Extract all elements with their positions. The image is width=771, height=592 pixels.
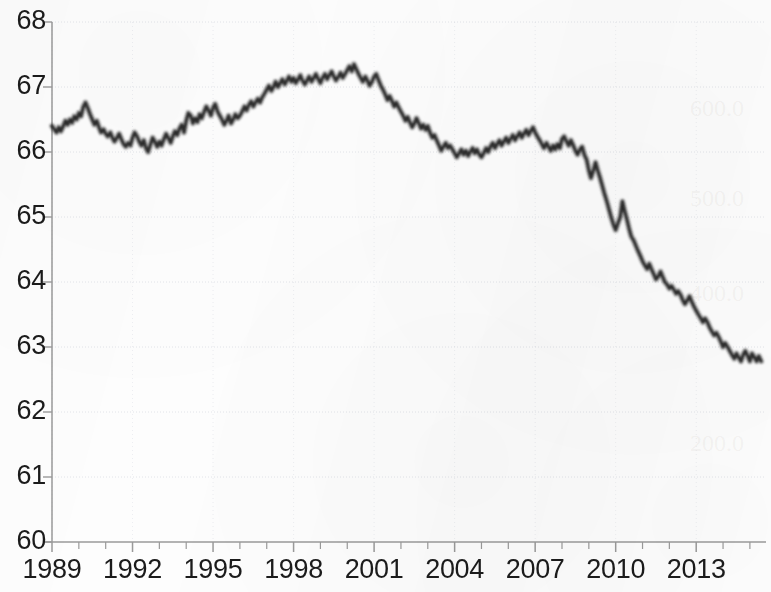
y-axis-tick-label: 63 (0, 330, 46, 361)
chart-line-halo (52, 64, 761, 361)
chart-data-line (52, 64, 761, 361)
x-axis-tick-label: 1989 (12, 554, 92, 585)
chart-container: 600.0 500.0 400.0 200.0 6867666564636261… (0, 0, 771, 592)
y-axis-tick-label: 60 (0, 525, 46, 556)
chart-plot-area (0, 0, 771, 592)
y-axis-tick-label: 68 (0, 5, 46, 36)
y-axis-tick-label: 64 (0, 265, 46, 296)
chart-x-minor-tick-marks (52, 542, 750, 552)
y-axis-tick-label: 65 (0, 200, 46, 231)
x-axis-tick-label: 2013 (656, 554, 736, 585)
y-axis-tick-label: 67 (0, 70, 46, 101)
x-axis-tick-label: 2007 (495, 554, 575, 585)
x-axis-tick-label: 2004 (415, 554, 495, 585)
chart-gridlines (52, 22, 766, 542)
x-axis-tick-label: 2001 (334, 554, 414, 585)
x-axis-tick-label: 1995 (173, 554, 253, 585)
y-axis-tick-label: 61 (0, 460, 46, 491)
x-axis-tick-label: 2010 (576, 554, 656, 585)
x-axis-tick-label: 1998 (254, 554, 334, 585)
y-axis-tick-label: 66 (0, 135, 46, 166)
y-axis-tick-label: 62 (0, 395, 46, 426)
x-axis-tick-label: 1992 (93, 554, 173, 585)
